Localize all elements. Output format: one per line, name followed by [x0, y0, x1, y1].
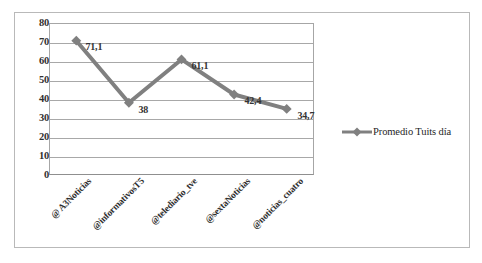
y-tick-label: 0	[19, 170, 49, 180]
y-tick-label: 80	[19, 18, 49, 28]
y-tick-label: 50	[19, 75, 49, 85]
y-tick-label: 10	[19, 151, 49, 161]
data-point-label: 38	[139, 105, 149, 115]
chart-frame: 80706050403020100 71,13861,142,434,7 @ A…	[14, 12, 470, 248]
y-tick-label: 60	[19, 56, 49, 66]
x-tick-label-text: @telediario_tve	[148, 176, 198, 226]
y-tick-label: 30	[19, 113, 49, 123]
y-axis: 80706050403020100	[19, 23, 49, 175]
x-tick-label-text: @ A3Noticias	[48, 176, 92, 220]
y-tick-label: 70	[19, 37, 49, 47]
data-point-label: 34,7	[298, 111, 315, 121]
x-axis: @ A3Noticias@informativosT5@telediario_t…	[49, 176, 324, 246]
y-tick-label: 40	[19, 94, 49, 104]
x-tick-label-text: @sextaNoticias	[203, 176, 252, 225]
data-point-label: 42,4	[245, 96, 262, 106]
data-point-marker	[282, 104, 292, 114]
y-tick-label: 20	[19, 132, 49, 142]
legend: Promedio Tuits día	[342, 126, 451, 138]
data-point-label: 71,1	[86, 42, 103, 52]
x-tick-label-text: @noticias_cuatro	[250, 176, 305, 231]
legend-label: Promedio Tuits día	[373, 126, 451, 138]
x-tick-label-text: @informativosT5	[90, 176, 146, 232]
data-point-label: 61,1	[192, 61, 209, 71]
legend-marker-icon	[342, 126, 372, 138]
